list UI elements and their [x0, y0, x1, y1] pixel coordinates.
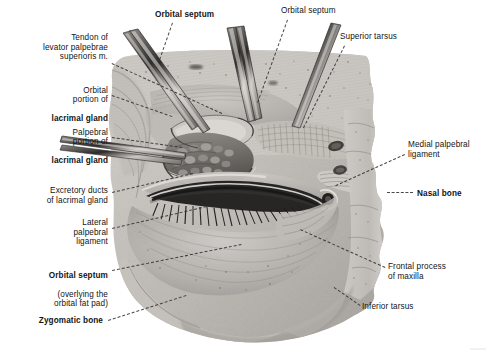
- label-frontal-process-of-maxilla: Frontal process of maxilla: [388, 262, 470, 281]
- label-superior-tarsus: Superior tarsus: [340, 32, 420, 42]
- label-orbital-septum-top-right: Orbital septum: [281, 6, 361, 16]
- label-orbital-septum-top-left: Orbital septum: [155, 10, 235, 20]
- label-medial-palpebral-ligament: Medial palpebral ligament: [408, 140, 490, 159]
- label-nasal-bone: Nasal bone: [417, 189, 487, 199]
- label-lateral-palpebral-ligament: Lateral palpebral ligament: [5, 218, 108, 247]
- orbital-portion-prefix: Orbital portion of: [73, 86, 108, 105]
- label-excretory-ducts-of-lacrimal-gland: Excretory ducts of lacrimal gland: [2, 186, 108, 205]
- orbital-septum-fat-pad-name: Orbital septum: [49, 271, 108, 280]
- label-inferior-tarsus: Inferior tarsus: [362, 302, 438, 312]
- label-tendon-of-levator-palpebrae: Tendon of levator palpebrae superioris m…: [5, 33, 108, 62]
- orbital-septum-fat-pad-note: (overlying the orbital fat pad): [54, 290, 108, 309]
- label-orbital-portion-lacrimal-gland: Orbital portion of lacrimal gland: [5, 76, 108, 124]
- label-orbital-septum-fat-pad: Orbital septum (overlying the orbital fa…: [2, 261, 108, 309]
- leader-nasal-bone: [387, 192, 413, 193]
- label-zygomatic-bone: Zygomatic bone: [5, 316, 103, 326]
- anatomy-figure: Orbital septum Orbital septum Superior t…: [0, 0, 491, 361]
- palpebral-portion-gland-name: lacrimal gland: [52, 156, 108, 165]
- label-palpebral-portion-lacrimal-gland: Palpebral portion of lacrimal gland: [2, 118, 108, 166]
- palpebral-portion-prefix: Palpebral portion of: [73, 128, 109, 147]
